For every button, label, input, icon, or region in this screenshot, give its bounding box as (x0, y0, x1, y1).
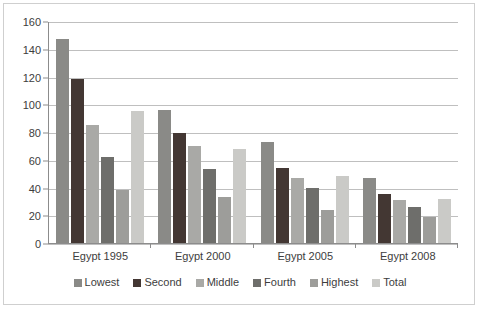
bar (188, 146, 201, 243)
y-axis-tick-label: 60 (29, 155, 41, 166)
legend-swatch-icon (196, 279, 204, 287)
bar (86, 125, 99, 243)
bar (321, 210, 334, 243)
bar-chart: 020406080100120140160 Egypt 1995Egypt 20… (0, 0, 480, 310)
bar (218, 197, 231, 243)
bar (131, 111, 144, 243)
bar-groups (49, 22, 458, 243)
x-axis-category-label: Egypt 2000 (152, 250, 255, 262)
legend-swatch-icon (133, 279, 141, 287)
legend-item[interactable]: Second (133, 277, 181, 288)
x-axis-category-label: Egypt 2005 (254, 250, 357, 262)
legend-swatch-icon (74, 279, 82, 287)
bar (56, 39, 69, 243)
legend-item-label: Total (383, 277, 406, 288)
x-tick-mark (150, 243, 151, 248)
legend-item[interactable]: Lowest (74, 277, 120, 288)
bar (173, 133, 186, 243)
bar (363, 178, 376, 243)
x-axis-category-label: Egypt 1995 (49, 250, 152, 262)
y-axis-tick-label: 80 (29, 128, 41, 139)
y-axis-tick-label: 100 (23, 100, 41, 111)
x-axis-category-label: Egypt 2008 (357, 250, 460, 262)
bar (261, 142, 274, 243)
bar (276, 168, 289, 243)
legend-item-label: Fourth (264, 277, 296, 288)
legend-item[interactable]: Highest (310, 277, 358, 288)
legend-item[interactable]: Middle (196, 277, 239, 288)
y-axis-tick-label: 160 (23, 17, 41, 28)
plot-area: 020406080100120140160 (48, 22, 458, 244)
bar (116, 190, 129, 243)
bar (233, 149, 246, 243)
y-axis-tick-label: 20 (29, 211, 41, 222)
y-axis-tick-label: 140 (23, 44, 41, 55)
bar (336, 176, 349, 243)
legend-item-label: Middle (207, 277, 239, 288)
bar (203, 169, 216, 243)
bar-group (151, 22, 253, 243)
legend-item[interactable]: Total (372, 277, 406, 288)
bar (438, 199, 451, 243)
bar (306, 188, 319, 244)
legend-item-label: Second (144, 277, 181, 288)
x-axis-labels: Egypt 1995Egypt 2000Egypt 2005Egypt 2008 (49, 250, 459, 262)
chart-legend: LowestSecondMiddleFourthHighestTotal (0, 277, 480, 288)
legend-swatch-icon (372, 279, 380, 287)
bar-group (254, 22, 356, 243)
bar (408, 207, 421, 243)
legend-item[interactable]: Fourth (253, 277, 296, 288)
bar (378, 194, 391, 243)
bar-group (49, 22, 151, 243)
legend-swatch-icon (253, 279, 261, 287)
bar-group (356, 22, 458, 243)
bar (393, 200, 406, 243)
legend-item-label: Highest (321, 277, 358, 288)
bar (101, 157, 114, 243)
bar (71, 79, 84, 243)
x-tick-mark (253, 243, 254, 248)
x-tick-mark (355, 243, 356, 248)
bar (158, 110, 171, 243)
legend-swatch-icon (310, 279, 318, 287)
y-axis-tick-label: 0 (35, 239, 41, 250)
y-axis-tick-label: 40 (29, 183, 41, 194)
bar (291, 178, 304, 243)
x-tick-mark (457, 243, 458, 248)
y-axis-tick-label: 120 (23, 72, 41, 83)
legend-item-label: Lowest (85, 277, 120, 288)
bar (423, 217, 436, 243)
